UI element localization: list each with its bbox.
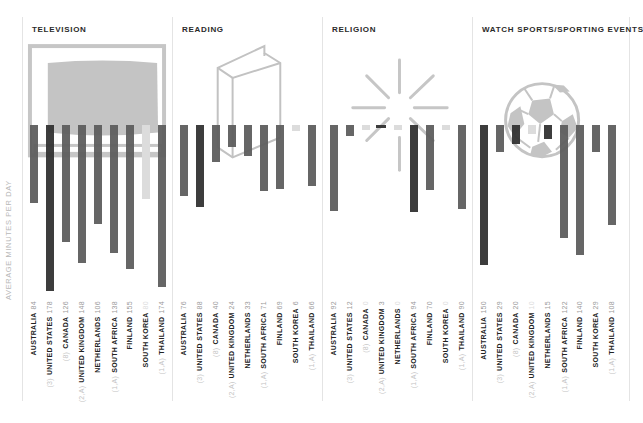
- y-axis-label: AVERAGE MINUTES PER DAY: [4, 180, 13, 300]
- bar: [46, 125, 54, 291]
- country-code: (1,A): [260, 372, 267, 389]
- bar: [576, 125, 584, 255]
- bar: [196, 125, 204, 207]
- country-code: (1,A): [458, 354, 465, 371]
- value-label: 76: [180, 301, 187, 309]
- country-name: NETHERLANDS: [244, 312, 251, 368]
- value-label: 92: [330, 301, 337, 309]
- value-label: 10: [528, 301, 535, 309]
- country-name: CANADA: [512, 312, 519, 344]
- value-label: 6: [292, 301, 299, 305]
- country-code: (8): [512, 348, 519, 357]
- value-label: 138: [110, 301, 117, 314]
- country-name: UNITED STATES: [46, 317, 53, 375]
- value-label: 148: [78, 301, 85, 314]
- value-label: 84: [30, 301, 37, 309]
- country-name: SOUTH KOREA: [142, 312, 149, 367]
- chart-panel-reading: READINGAUSTRALIA76(3)UNITED STATES88(8)C…: [172, 17, 322, 401]
- bar: [442, 125, 450, 130]
- country-name: UNITED STATES: [346, 312, 353, 370]
- country-code: (1,A): [608, 358, 615, 375]
- country-code: (1,A): [560, 376, 567, 393]
- country-name: THAILAND: [158, 317, 165, 355]
- bar: [276, 125, 284, 189]
- country-name: UNITED STATES: [196, 312, 203, 370]
- bar: [528, 125, 536, 134]
- country-code: (1,A): [110, 376, 117, 393]
- country-name: CANADA: [212, 312, 219, 344]
- country-name: NETHERLANDS: [94, 317, 101, 373]
- bar: [292, 125, 300, 131]
- bar: [330, 125, 338, 211]
- bar: [346, 125, 354, 136]
- bar: [458, 125, 466, 209]
- bar: [410, 125, 418, 212]
- value-label: 70: [426, 301, 433, 309]
- country-name: SOUTH KOREA: [442, 308, 449, 363]
- country-name: FINLAND: [126, 317, 133, 350]
- value-label: 88: [196, 301, 203, 309]
- value-label: 106: [94, 301, 101, 314]
- bar: [62, 125, 70, 242]
- panel-title: RELIGION: [332, 25, 376, 34]
- country-name: NETHERLANDS: [394, 308, 401, 364]
- bar: [362, 125, 370, 130]
- bar: [228, 125, 236, 147]
- country-code: (3): [196, 374, 203, 383]
- country-code: (3): [46, 378, 53, 387]
- country-name: UNITED KINGDOM: [528, 312, 535, 378]
- value-label: 90: [458, 301, 465, 309]
- bar: [496, 125, 504, 152]
- country-name: SOUTH AFRICA: [410, 312, 417, 368]
- value-label: 0: [442, 301, 449, 305]
- bar: [376, 125, 386, 128]
- bar: [608, 125, 616, 225]
- bar: [212, 125, 220, 162]
- value-label: 0: [362, 301, 369, 305]
- bar: [308, 125, 316, 186]
- country-name: SOUTH KOREA: [592, 312, 599, 367]
- value-label: 15: [544, 301, 551, 309]
- country-code: (8): [362, 343, 369, 352]
- value-label: 155: [126, 301, 133, 314]
- country-code: (2,A): [378, 377, 385, 394]
- country-name: FINLAND: [576, 317, 583, 350]
- value-label: 122: [560, 301, 567, 314]
- country-name: AUSTRALIA: [180, 312, 187, 355]
- bar: [110, 125, 118, 253]
- country-code: (1,A): [308, 354, 315, 371]
- bar: [126, 125, 134, 269]
- value-label: 80: [142, 301, 149, 309]
- value-label: 12: [346, 301, 353, 309]
- bar: [394, 125, 402, 130]
- value-label: 40: [212, 301, 219, 309]
- panel-title: READING: [182, 25, 224, 34]
- country-name: THAILAND: [458, 312, 465, 350]
- bar: [142, 125, 150, 199]
- bar: [260, 125, 268, 191]
- chart-panel-watch-sports-sporting-events: WATCH SPORTS/SPORTING EVENTSAUSTRALIA150…: [472, 17, 630, 401]
- country-name: FINLAND: [426, 312, 433, 345]
- bar: [94, 125, 102, 224]
- value-label: 140: [576, 301, 583, 314]
- country-name: AUSTRALIA: [330, 312, 337, 355]
- value-label: 174: [158, 301, 165, 314]
- value-label: 33: [244, 301, 251, 309]
- country-code: (8): [212, 348, 219, 357]
- country-code: (2,A): [528, 381, 535, 398]
- country-name: CANADA: [362, 308, 369, 340]
- bar: [592, 125, 600, 152]
- country-name: AUSTRALIA: [480, 317, 487, 360]
- bar: [244, 125, 252, 156]
- bar: [544, 125, 552, 139]
- bar: [512, 125, 520, 144]
- country-name: SOUTH AFRICA: [110, 317, 117, 373]
- country-name: UNITED KINGDOM: [378, 308, 385, 374]
- country-name: NETHERLANDS: [544, 312, 551, 368]
- country-code: (8): [62, 352, 69, 361]
- value-label: 20: [512, 301, 519, 309]
- bar: [158, 125, 166, 287]
- bar: [560, 125, 568, 238]
- value-label: 0: [394, 301, 401, 305]
- value-label: 150: [480, 301, 487, 314]
